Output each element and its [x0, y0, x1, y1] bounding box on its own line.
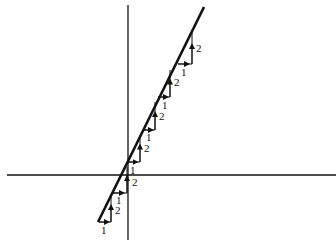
staircase-steps: 121212121212 [99, 32, 202, 236]
run-label: 1 [146, 131, 152, 143]
run-label: 1 [116, 194, 122, 206]
run-label: 1 [162, 99, 168, 111]
diagram-canvas: 121212121212 [0, 0, 336, 246]
rise-label: 2 [174, 76, 180, 88]
rise-label: 2 [144, 142, 150, 154]
rise-label: 2 [132, 176, 138, 188]
run-label: 1 [130, 164, 136, 176]
run-label: 1 [101, 224, 107, 236]
rise-label: 2 [159, 110, 165, 122]
sloped-line [98, 7, 204, 222]
rise-label: 2 [196, 42, 202, 54]
slope-staircase-diagram: 121212121212 [0, 0, 336, 246]
run-label: 1 [181, 66, 187, 78]
